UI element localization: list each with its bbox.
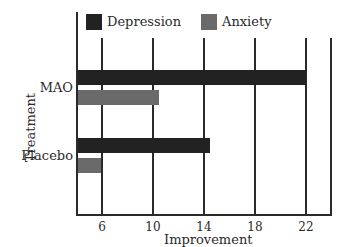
gridline-6 [101,38,103,216]
legend-swatch-depression [86,14,102,30]
legend-label-depression: Depression [107,14,181,30]
bar-mao-depression [78,70,306,85]
gridline-right [330,38,332,216]
x-axis-title: Improvement [164,232,252,247]
x-tick-6: 6 [87,220,117,234]
gridline-14 [203,38,205,216]
x-tick-22: 22 [291,220,321,234]
bar-placebo-anxiety [78,158,101,173]
bar-placebo-depression [78,138,210,153]
bar-mao-anxiety [78,90,159,105]
y-axis-line [76,12,78,216]
gridline-18 [254,38,256,216]
legend-swatch-anxiety [201,14,217,30]
legend-label-anxiety: Anxiety [222,14,272,30]
category-label-mao: MAO [40,80,73,95]
y-axis-title: Treatment [23,93,38,162]
gridline-10 [152,38,154,216]
gridline-22 [305,38,307,216]
